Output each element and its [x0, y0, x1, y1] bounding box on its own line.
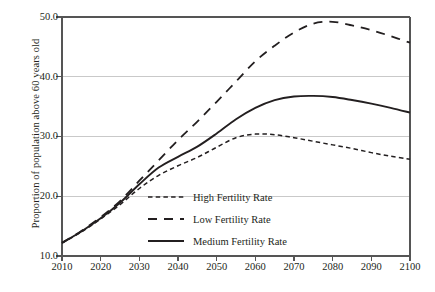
legend-item-high-fertility-rate: High Fertility Rate	[148, 186, 328, 208]
chart-figure: Proportion of population above 60 years …	[0, 0, 435, 292]
legend-label: High Fertility Rate	[193, 192, 272, 203]
legend-label: Low Fertility Rate	[193, 214, 271, 225]
legend-swatch-fine-dashed	[148, 192, 184, 202]
legend-swatch-long-dashed	[148, 214, 184, 224]
x-tick-label: 2010	[42, 261, 82, 272]
y-tick-label: 30.0	[24, 131, 58, 141]
x-axis-tick-labels: 2010202020302040205020602070208020902100	[0, 261, 435, 277]
legend-item-low-fertility-rate: Low Fertility Rate	[148, 208, 328, 230]
x-tick-label: 2100	[390, 261, 430, 272]
x-tick-label: 2060	[235, 261, 275, 272]
x-tick-label: 2030	[119, 261, 159, 272]
x-tick-label: 2090	[351, 261, 391, 272]
gridlines	[62, 77, 410, 197]
legend-label: Medium Fertility Rate	[193, 236, 287, 247]
y-tick-label: 40.0	[24, 72, 58, 82]
x-tick-label: 2020	[81, 261, 121, 272]
legend-item-medium-fertility-rate: Medium Fertility Rate	[148, 230, 328, 252]
y-tick-label: 50.0	[24, 12, 58, 22]
y-tick-label: 10.0	[24, 251, 58, 261]
chart-legend: High Fertility Rate Low Fertility Rate M…	[148, 186, 328, 252]
x-tick-label: 2080	[313, 261, 353, 272]
x-tick-label: 2070	[274, 261, 314, 272]
y-tick-label: 20.0	[24, 191, 58, 201]
y-axis-tick-labels: 50.0 40.0 30.0 20.0 10.0	[22, 0, 58, 292]
legend-swatch-solid	[148, 236, 184, 246]
x-tick-label: 2040	[158, 261, 198, 272]
x-tick-label: 2050	[197, 261, 237, 272]
